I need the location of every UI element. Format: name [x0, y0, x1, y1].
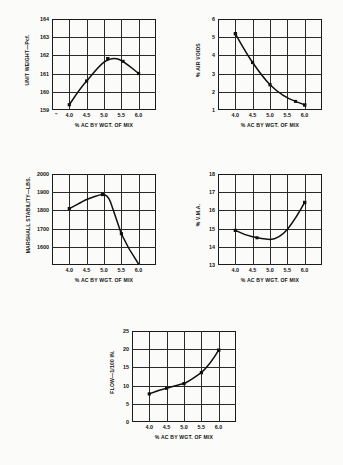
y-tick-label: 160: [28, 89, 49, 95]
data-curve: [218, 174, 322, 265]
x-axis-label: % AC BY WGT. OF MIX: [220, 122, 320, 128]
y-tick-label: 161: [28, 71, 49, 77]
y-tick-label: 164: [28, 16, 49, 22]
x-tick-label: 6.0: [128, 267, 150, 273]
y-tick-label: 3: [200, 71, 215, 77]
x-tick-label: 6.0: [294, 267, 316, 273]
y-axis-label: FLOW—1/100 IN.: [109, 340, 115, 404]
x-axis-label: % AC BY WGT. OF MIX: [220, 277, 320, 283]
x-axis-label: % AC BY WGT. OF MIX: [54, 122, 154, 128]
x-tick-label: 6.0: [208, 424, 230, 430]
y-tick-label: 0: [112, 419, 129, 425]
y-tick-label: 4: [200, 52, 215, 58]
y-tick-label: 159: [28, 107, 49, 113]
data-curve: [218, 19, 322, 110]
chart-air-voids: 6 5 4 3 2 1 4.0 4.5 5.0 5.5 6.0 % AIR VO…: [172, 0, 343, 155]
data-curve: [52, 174, 156, 265]
y-tick-label: 6: [200, 16, 215, 22]
data-curve: [52, 19, 156, 110]
y-tick-label: 25: [112, 328, 129, 334]
y-axis-label: % AIR VOIDS: [195, 30, 201, 90]
y-axis-label: UNIT WEIGHT—Pcf.: [24, 20, 30, 100]
chart-marshall-stability: 2000 1900 1800 1700 1600 4.0 4.5 5.0 5.5…: [0, 155, 172, 310]
y-tick-label: 162: [28, 52, 49, 58]
x-axis-label: % AC BY WGT. OF MIX: [54, 277, 154, 283]
x-tick-label: 6.0: [294, 112, 316, 118]
chart-unit-weight: 164 163 162 161 160 159 ʺ 4.0 4.5 5.0 5.…: [0, 0, 172, 155]
x-tick-label: 6.0: [128, 112, 150, 118]
y-tick-label: 2: [200, 89, 215, 95]
y-tick-label: 1: [200, 107, 215, 113]
y-tick-label: 5: [200, 34, 215, 40]
y-tick-label: 13: [198, 262, 215, 268]
y-axis-label: MARSHALL STABILITY—LBS.: [25, 167, 31, 263]
y-tick-label: 163: [28, 34, 49, 40]
y-tick-label: 18: [198, 171, 215, 177]
axis-origin-mark: ʺ: [55, 112, 58, 118]
figure-page: 164 163 162 161 160 159 ʺ 4.0 4.5 5.0 5.…: [0, 0, 343, 465]
y-tick-label: 14: [198, 244, 215, 250]
chart-vma: 18 17 16 15 14 13 4.0 4.5 5.0 5.5 6.0 % …: [172, 155, 343, 310]
y-axis-label: % V.M.A.: [195, 190, 201, 240]
x-axis-label: % AC BY WGT. OF MIX: [134, 434, 234, 440]
data-curve: [132, 331, 236, 422]
chart-flow: 25 20 15 10 5 0 4.0 4.5 5.0 5.5 6.0 FLOW…: [86, 312, 257, 465]
